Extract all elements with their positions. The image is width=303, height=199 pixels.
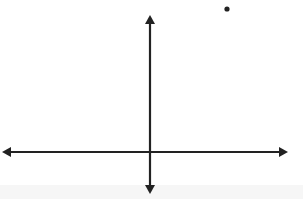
x-axis-right-arrow-icon (279, 147, 288, 157)
x-axis-left-arrow-icon (2, 147, 11, 157)
y-axis-up-arrow-icon (145, 15, 155, 24)
point-f-marker (224, 6, 229, 11)
coordinate-plane (0, 0, 303, 199)
